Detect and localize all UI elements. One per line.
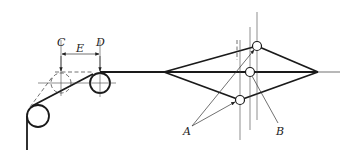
label-e: E <box>75 42 84 55</box>
diamond-upper-right <box>257 46 318 72</box>
belt-alt-path <box>30 76 53 107</box>
diamond-upper-left <box>164 46 257 72</box>
leader-a-bottom <box>192 102 235 126</box>
leader-b <box>252 76 278 123</box>
label-b: B <box>275 125 284 138</box>
diamond-lower-left <box>164 72 240 100</box>
roller-bottom <box>236 96 245 105</box>
left-pulley-assembly: C D E <box>27 36 116 150</box>
label-d: D <box>95 36 105 49</box>
label-c: C <box>57 36 66 49</box>
diamond-guide: A B <box>164 12 340 140</box>
roller-top <box>253 42 262 51</box>
mechanical-diagram: C D E A B <box>0 0 360 162</box>
label-a: A <box>182 125 191 138</box>
roller-middle <box>246 68 255 77</box>
belt-diagonal <box>32 74 93 106</box>
bottom-pulley <box>27 105 49 127</box>
